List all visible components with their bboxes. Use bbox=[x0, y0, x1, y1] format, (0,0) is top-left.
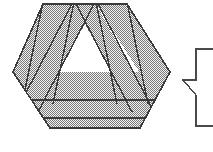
figure-svg bbox=[0, 0, 213, 152]
figure-canvas bbox=[0, 0, 213, 152]
